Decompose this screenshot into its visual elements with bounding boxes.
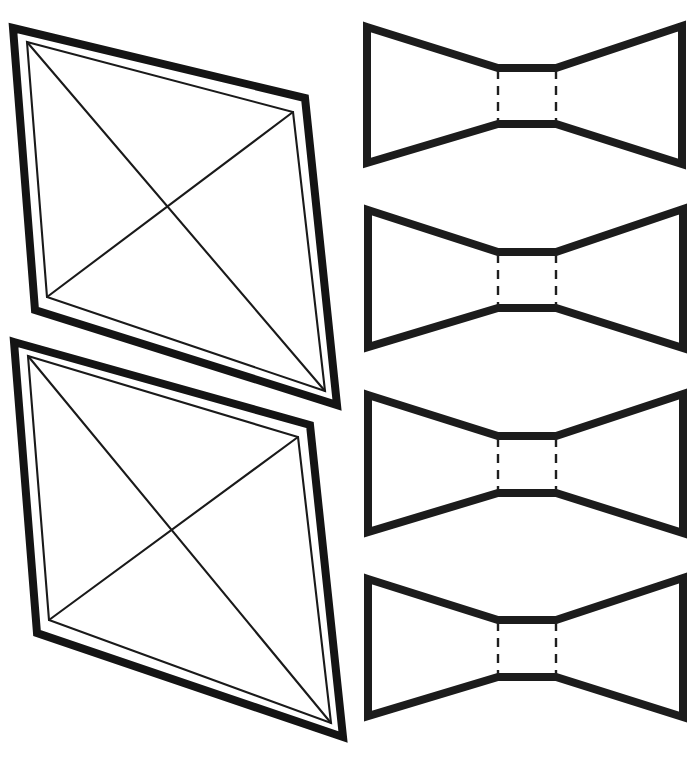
template-sheet [0, 0, 700, 757]
template-canvas [0, 0, 700, 757]
